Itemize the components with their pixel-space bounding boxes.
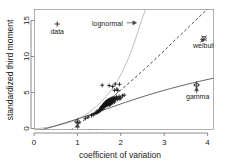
x-tick-label-3: 3 [162, 138, 167, 147]
y-tick-label-10: 10 [22, 52, 31, 61]
annotation-arrow-exponential [76, 124, 80, 128]
annotation-arrow-lognormal [133, 21, 137, 25]
cullen-frey-chart: 15 10 5 0 standardized third moment 0 1 … [0, 0, 226, 164]
annotation-label-gamma: gamma [186, 93, 209, 101]
annotation-lognormal: lognormal [92, 20, 137, 28]
curve-lognormal [35, 8, 147, 129]
y-tick-label-0: 0 [22, 126, 31, 131]
curve-weibull [67, 9, 209, 134]
y-axis-title: standardized third moment [5, 19, 15, 120]
legend-data: data [50, 21, 64, 35]
x-tick-label-0: 0 [32, 138, 37, 147]
annotation-label-weibull: weibull [192, 42, 215, 49]
reference-markers [74, 36, 207, 126]
annotation-gamma: gamma [186, 87, 209, 100]
x-axis-title: coefficient of variation [79, 150, 161, 160]
x-tick-label-1: 1 [75, 138, 80, 147]
annotation-arrow-gamma [195, 87, 199, 91]
x-axis: 0 1 2 3 4 coefficient of variation [32, 133, 211, 160]
y-axis: 15 10 5 0 standardized third moment [5, 16, 34, 131]
y-tick-label-5: 5 [22, 90, 31, 95]
x-tick-label-2: 2 [119, 138, 124, 147]
annotation-label-exponential: exponential [62, 128, 98, 136]
legend-label-data: data [50, 28, 64, 35]
y-tick-label-15: 15 [22, 16, 31, 25]
data-point-cluster [76, 82, 127, 125]
annotation-weibull: weibull [192, 39, 215, 49]
curve-gamma [35, 78, 214, 132]
annotation-label-lognormal: lognormal [92, 20, 123, 28]
chart-canvas: 15 10 5 0 standardized third moment 0 1 … [0, 0, 226, 164]
x-tick-label-4: 4 [205, 138, 210, 147]
